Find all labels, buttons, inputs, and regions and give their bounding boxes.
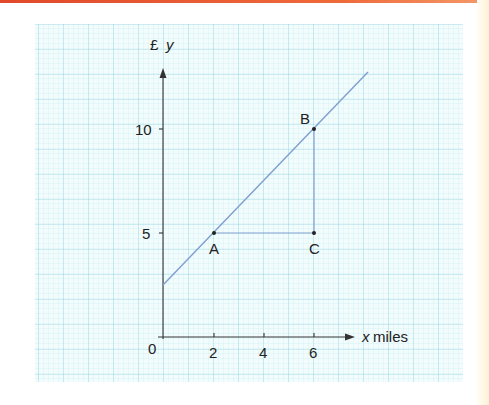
x-tick-4: 4 <box>259 344 267 361</box>
x-unit-label: miles <box>373 328 408 345</box>
y-tick-5: 5 <box>142 225 150 242</box>
point-b <box>312 127 316 131</box>
x-tick-2: 2 <box>209 344 217 361</box>
point-a-label: A <box>209 240 219 257</box>
point-b-label: B <box>300 110 310 127</box>
y-tick-10: 10 <box>135 121 152 138</box>
x-var-label: x <box>361 328 370 345</box>
origin-label: 0 <box>148 340 156 357</box>
graph: £ y x miles 0 2 4 6 5 10 A B C <box>0 0 489 405</box>
point-c-label: C <box>309 240 320 257</box>
x-tick-6: 6 <box>309 344 317 361</box>
y-unit-label: £ <box>150 36 159 53</box>
point-c <box>312 231 316 235</box>
point-a <box>212 231 216 235</box>
